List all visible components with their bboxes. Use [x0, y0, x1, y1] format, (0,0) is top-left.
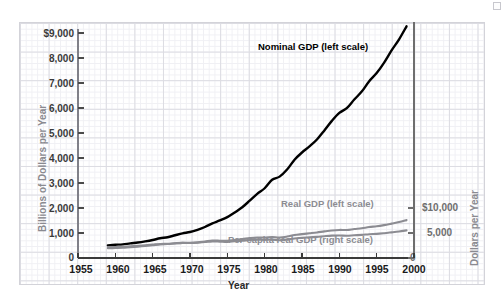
series-lines — [108, 26, 407, 248]
series-line-per-capita-real-gdp — [108, 230, 407, 247]
axis-spines — [78, 22, 414, 258]
gdp-chart-figure: Billions of Dollars per Year Dollars per… — [0, 0, 503, 301]
chart-plot-area — [0, 0, 503, 301]
series-line-nominal-gdp — [108, 26, 407, 245]
